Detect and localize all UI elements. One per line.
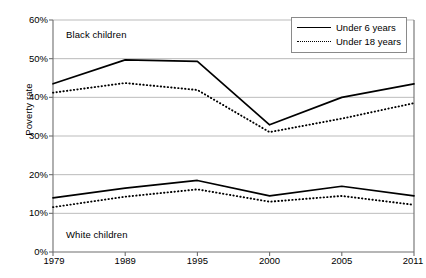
series-line [53, 189, 414, 207]
legend: Under 6 years Under 18 years [291, 17, 407, 53]
annotation-black-children: Black children [66, 29, 127, 40]
series-line [53, 60, 414, 125]
legend-solid-line-icon [296, 23, 332, 33]
legend-item-label: Under 6 years [336, 23, 396, 33]
legend-item-under-6-years: Under 6 years [296, 21, 401, 35]
legend-item-label: Under 18 years [336, 37, 401, 47]
legend-dotted-line-icon [296, 37, 332, 47]
series-lines [53, 60, 414, 207]
legend-item-under-18-years: Under 18 years [296, 35, 401, 49]
tick-marks [49, 20, 414, 256]
annotation-white-children: White children [66, 229, 128, 240]
poverty-rate-line-chart: Poverty rate 0%10%20%30%40%50%60% 197919… [0, 0, 426, 278]
series-line [53, 83, 414, 132]
